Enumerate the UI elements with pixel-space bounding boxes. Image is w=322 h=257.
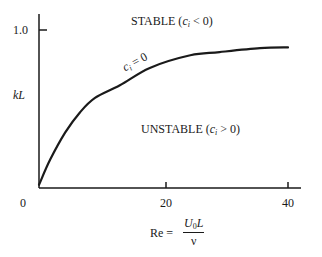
x-axis-label-re: Re = <box>150 227 173 239</box>
fraction-denominator: ν <box>191 233 196 247</box>
stable-region-label: STABLE (ci < 0) <box>131 15 213 29</box>
y-tick-label-1-0: 1.0 <box>13 24 28 36</box>
y-axis-label: kL <box>13 89 25 101</box>
x-tick-label-40: 40 <box>282 197 294 209</box>
x-axis-label-fraction: U0L ν <box>183 217 204 247</box>
neutral-stability-curve <box>39 47 288 184</box>
fraction-numerator: U0L <box>183 217 204 233</box>
origin-label: 0 <box>20 197 26 209</box>
unstable-region-label: UNSTABLE (ci > 0) <box>141 123 240 137</box>
x-tick-label-20: 20 <box>160 197 172 209</box>
